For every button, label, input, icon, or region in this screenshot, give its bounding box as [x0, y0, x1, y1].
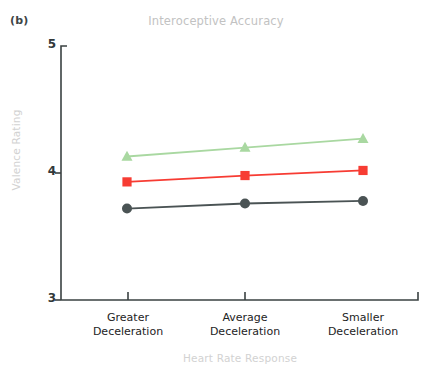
data-point: [240, 171, 249, 180]
x-axis-ticks: [128, 292, 245, 300]
y-axis-ticks: [55, 173, 61, 300]
series-triangle: [121, 133, 368, 161]
data-point: [358, 166, 367, 175]
series-square: [122, 166, 367, 187]
data-point: [122, 177, 131, 186]
data-point: [240, 198, 250, 208]
series-circle: [122, 196, 368, 214]
data-point: [357, 133, 368, 143]
x-axis-spine: [61, 292, 418, 300]
data-point: [122, 204, 132, 214]
data-series-layer: [121, 133, 368, 214]
y-axis-spine: [61, 46, 67, 300]
plot-area: [0, 0, 432, 377]
figure-panel: (b) Interoceptive Accuracy Valence Ratin…: [0, 0, 432, 377]
data-point: [358, 196, 368, 206]
